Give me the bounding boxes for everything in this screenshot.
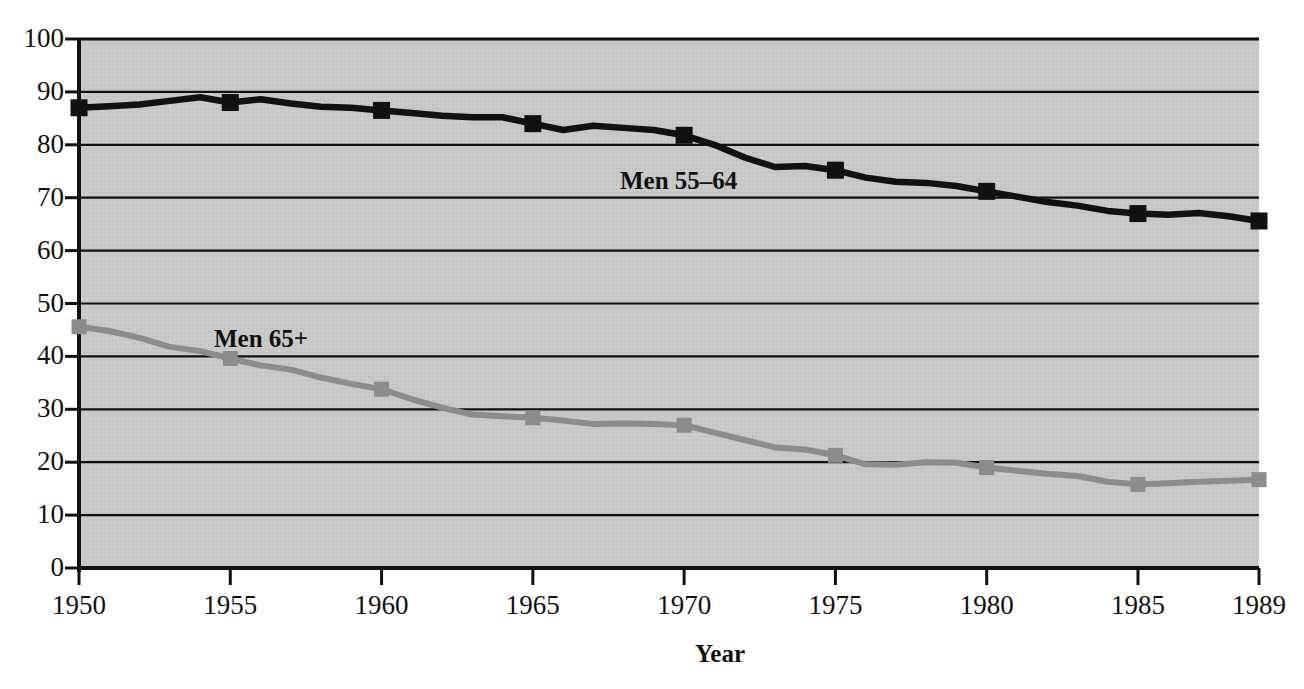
- y-axis-tick-label: 50: [2, 290, 64, 317]
- data-point-marker: [1252, 472, 1267, 487]
- data-point-marker: [1130, 477, 1145, 492]
- line-chart: 0102030405060708090100 19501955196019651…: [0, 0, 1304, 689]
- x-axis-tick-label: 1950: [24, 592, 134, 619]
- y-axis-tick-label: 80: [2, 131, 64, 158]
- y-axis-ticks: [65, 39, 79, 568]
- y-axis-tick-label: 30: [2, 395, 64, 422]
- x-axis-tick-label: 1989: [1204, 592, 1304, 619]
- data-point-marker: [1251, 212, 1268, 229]
- data-point-marker: [979, 460, 994, 475]
- y-axis-tick-label: 100: [2, 25, 64, 52]
- x-axis-tick-label: 1985: [1083, 592, 1193, 619]
- y-axis-tick-label: 10: [2, 501, 64, 528]
- y-axis-tick-label: 90: [2, 78, 64, 105]
- x-axis-tick-label: 1980: [932, 592, 1042, 619]
- data-point-marker: [827, 162, 844, 179]
- x-axis-tick-label: 1955: [175, 592, 285, 619]
- data-point-marker: [978, 183, 995, 200]
- data-point-marker: [524, 115, 541, 132]
- x-axis-title: Year: [660, 640, 780, 668]
- y-axis-tick-label: 20: [2, 448, 64, 475]
- data-point-marker: [72, 319, 87, 334]
- series-annotation-label: Men 55–64: [620, 167, 737, 195]
- data-point-marker: [223, 351, 238, 366]
- data-point-marker: [1129, 205, 1146, 222]
- data-point-marker: [677, 418, 692, 433]
- series-annotation-label: Men 65+: [214, 325, 308, 353]
- y-axis-tick-label: 60: [2, 237, 64, 264]
- x-axis-tick-label: 1975: [780, 592, 890, 619]
- x-axis-ticks: [79, 568, 1259, 585]
- x-axis-tick-label: 1970: [629, 592, 739, 619]
- y-axis-tick-label: 0: [2, 554, 64, 581]
- data-point-marker: [222, 94, 239, 111]
- data-point-marker: [373, 102, 390, 119]
- data-point-marker: [71, 99, 88, 116]
- x-axis-tick-label: 1965: [478, 592, 588, 619]
- chart-canvas: [0, 0, 1304, 689]
- y-axis-tick-label: 70: [2, 184, 64, 211]
- data-point-marker: [374, 382, 389, 397]
- data-point-marker: [525, 410, 540, 425]
- data-point-marker: [676, 127, 693, 144]
- x-axis-tick-label: 1960: [327, 592, 437, 619]
- y-axis-tick-label: 40: [2, 342, 64, 369]
- data-point-marker: [828, 448, 843, 463]
